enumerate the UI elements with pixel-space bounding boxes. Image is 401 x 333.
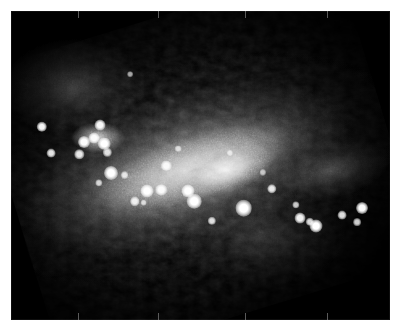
galaxy-image-frame [11, 11, 390, 320]
frame-inner-edge [11, 11, 390, 320]
screenshot-root [0, 0, 401, 333]
